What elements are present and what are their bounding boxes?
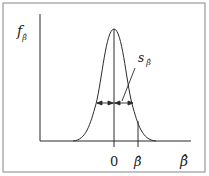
x-axis-label: β̂ [179, 153, 188, 169]
frame-border [3, 3, 205, 172]
tick-label-zero: 0 [110, 154, 118, 169]
tick-label-estimate: β̂ [133, 154, 142, 169]
distribution-diagram: fβ̂ sβ̂ 0 β̂ β̂ [0, 0, 209, 176]
